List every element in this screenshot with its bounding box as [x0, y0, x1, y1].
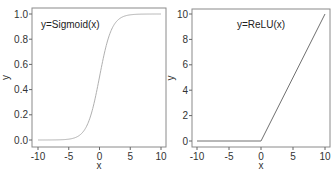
x-tick-label: -5: [225, 151, 234, 162]
function-annotation: y=ReLU(x): [237, 19, 285, 30]
x-tick-label: -10: [31, 151, 46, 162]
relu-chart: -10-505100246810xyy=ReLU(x): [165, 9, 331, 172]
y-tick-label: 2: [182, 110, 188, 121]
y-tick-label: 10: [177, 9, 189, 20]
y-tick-label: 4: [182, 85, 188, 96]
y-tick-label: 6: [182, 59, 188, 70]
y-tick-label: 1.0: [14, 9, 28, 20]
y-axis-label: y: [165, 76, 176, 81]
y-tick-label: 0.6: [14, 59, 28, 70]
x-axis-label: x: [259, 160, 264, 171]
sigmoid-chart: -10-505100.00.20.40.60.81.0xyy=Sigmoid(x…: [0, 8, 167, 171]
y-tick-label: 8: [182, 34, 188, 45]
x-tick-label: 10: [319, 151, 331, 162]
x-tick-label: 5: [127, 151, 133, 162]
y-tick-label: 0.0: [14, 135, 28, 146]
x-tick-label: 5: [290, 151, 296, 162]
x-tick-label: -5: [64, 151, 73, 162]
x-tick-label: -10: [190, 151, 205, 162]
y-tick-label: 0: [182, 136, 188, 147]
y-tick-label: 0.8: [14, 34, 28, 45]
function-annotation: y=Sigmoid(x): [41, 19, 100, 30]
y-axis-label: y: [0, 75, 11, 80]
activation-functions-figure: -10-505100.00.20.40.60.81.0xyy=Sigmoid(x…: [0, 0, 332, 174]
y-tick-label: 0.4: [14, 84, 28, 95]
x-axis-label: x: [97, 160, 102, 171]
x-tick-label: 10: [155, 151, 167, 162]
y-tick-label: 0.2: [14, 109, 28, 120]
